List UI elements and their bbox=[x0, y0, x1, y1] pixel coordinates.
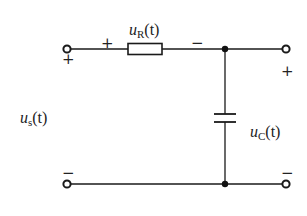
resistor-minus-sign: − bbox=[191, 34, 204, 52]
capacitor-voltage-var: u bbox=[250, 123, 258, 140]
resistor-voltage-var: u bbox=[129, 21, 137, 38]
resistor-voltage-arg: (t) bbox=[144, 21, 159, 39]
resistor-voltage-label: uR(t) bbox=[129, 21, 159, 40]
rc-circuit-diagram: + − + + − − uR(t) us(t) uC(t) bbox=[0, 0, 307, 216]
resistor-plus-sign: + bbox=[101, 34, 114, 52]
output-bottom-minus-sign: − bbox=[281, 164, 294, 182]
input-top-plus-sign: + bbox=[62, 50, 75, 68]
resistor bbox=[128, 44, 162, 55]
source-voltage-arg: (t) bbox=[32, 109, 47, 127]
source-voltage-label: us(t) bbox=[20, 109, 47, 128]
capacitor-voltage-arg: (t) bbox=[265, 123, 280, 141]
capacitor-voltage-sub: C bbox=[258, 130, 265, 142]
capacitor-voltage-label: uC(t) bbox=[250, 123, 280, 142]
source-voltage-var: u bbox=[20, 109, 28, 126]
output-top-plus-sign: + bbox=[281, 62, 294, 80]
junction-node-bottom bbox=[222, 181, 228, 187]
terminal-output-top bbox=[282, 45, 289, 52]
junction-node-top bbox=[222, 46, 228, 52]
input-bottom-minus-sign: − bbox=[62, 164, 75, 182]
